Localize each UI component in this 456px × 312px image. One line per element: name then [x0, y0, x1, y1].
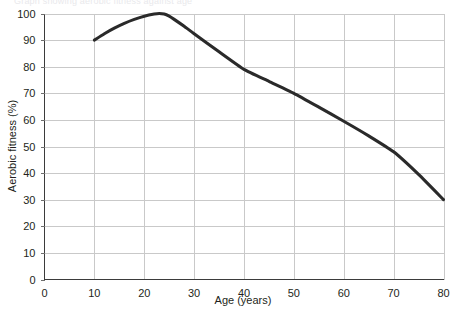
vertical-gridlines [95, 14, 445, 280]
y-tick-label-100: 100 [0, 8, 36, 19]
data-series-group [94, 14, 443, 200]
y-tick-label-10: 10 [0, 247, 36, 258]
plot-canvas [0, 0, 456, 312]
x-axis-title: Age (years) [215, 294, 272, 306]
y-tick-label-30: 30 [0, 194, 36, 205]
y-tick-label-20: 20 [0, 221, 36, 232]
y-tick-label-70: 70 [0, 88, 36, 99]
y-tick-label-90: 90 [0, 35, 36, 46]
x-tick-label-80: 80 [437, 288, 449, 299]
x-tick-label-20: 20 [138, 288, 150, 299]
y-tick-label-0: 0 [0, 274, 36, 285]
y-tick-label-80: 80 [0, 61, 36, 72]
x-tick-label-0: 0 [41, 288, 47, 299]
x-tick-label-10: 10 [88, 288, 100, 299]
y-axis-title: Aerobic fitness (%) [6, 100, 18, 192]
x-tick-label-30: 30 [188, 288, 200, 299]
chart-figure: Graph showing aerobic fitness against ag… [0, 0, 456, 312]
x-tick-label-70: 70 [388, 288, 400, 299]
x-tick-label-60: 60 [338, 288, 350, 299]
x-tick-label-50: 50 [288, 288, 300, 299]
series-line-0 [94, 14, 443, 200]
